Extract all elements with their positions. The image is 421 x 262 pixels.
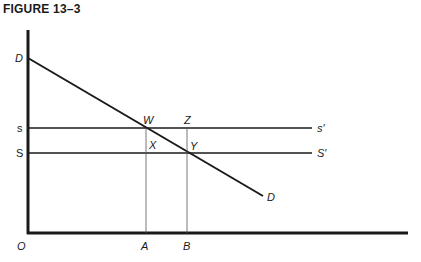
label-A: A <box>140 240 148 252</box>
label-s-prime: s′ <box>317 122 326 134</box>
label-B: B <box>183 240 190 252</box>
demand-line <box>28 58 263 196</box>
label-S: S <box>16 147 23 159</box>
label-D-start: D <box>15 52 23 64</box>
label-D-end: D <box>267 191 275 203</box>
label-s: s <box>17 122 23 134</box>
label-O: O <box>17 240 26 252</box>
diagram-canvas: D s S W Z X Y s′ S′ D O A B <box>0 0 421 262</box>
label-Y: Y <box>190 140 198 152</box>
label-X: X <box>148 139 157 151</box>
label-W: W <box>143 114 155 126</box>
label-S-prime: S′ <box>317 147 327 159</box>
label-Z: Z <box>183 114 192 126</box>
